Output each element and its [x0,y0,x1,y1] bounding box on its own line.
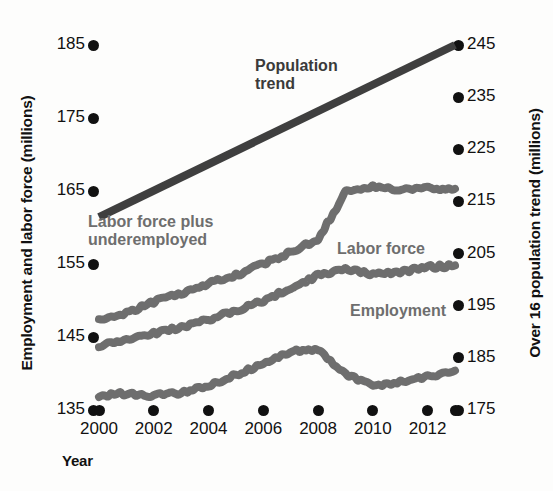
tick-label: 155 [37,253,85,273]
tick-label: 185 [467,347,495,367]
tick-label: 195 [467,295,495,315]
tick-label: 135 [37,399,85,419]
tick-label: 2000 [69,419,129,439]
tick-label: 2012 [398,419,458,439]
chart-figure: Employment and labor force (millions) Ov… [0,0,553,491]
tick-label: 165 [37,180,85,200]
tick-dot [453,40,464,51]
x-axis-title: Year [62,452,93,469]
tick-dot [450,405,461,416]
tick-dot [88,113,99,124]
tick-label: 2010 [343,419,403,439]
annotation-labor-force-plus-underemployed: Labor force plus underemployed [88,213,213,249]
tick-dot [453,248,464,259]
tick-label: 245 [467,34,495,54]
tick-dot [422,405,433,416]
tick-dot [88,40,99,51]
annotation-population-trend: Population trend [255,57,338,93]
tick-dot [453,352,464,363]
tick-dot [453,300,464,311]
series-line-employment [99,349,455,397]
annotation-labor-force: Labor force [337,240,425,258]
tick-dot [88,186,99,197]
tick-dot [453,196,464,207]
tick-label: 2008 [288,419,348,439]
tick-label: 185 [37,34,85,54]
tick-label: 145 [37,326,85,346]
y-axis-right-title: Over 16 population trend (millions) [526,23,544,443]
annotation-employment: Employment [350,302,446,320]
tick-dot [258,405,269,416]
tick-dot [453,144,464,155]
tick-dot [203,405,214,416]
tick-dot [94,405,105,416]
tick-label: 2002 [124,419,184,439]
tick-label: 2006 [233,419,293,439]
tick-label: 205 [467,243,495,263]
tick-label: 175 [467,399,495,419]
tick-dot [313,405,324,416]
tick-label: 225 [467,138,495,158]
tick-dot [88,259,99,270]
y-axis-left-title: Employment and labor force (millions) [18,23,36,443]
tick-dot [367,405,378,416]
tick-dot [453,92,464,103]
tick-dot [148,405,159,416]
tick-label: 215 [467,190,495,210]
tick-label: 235 [467,86,495,106]
tick-dot [88,332,99,343]
tick-label: 175 [37,107,85,127]
tick-label: 2004 [179,419,239,439]
